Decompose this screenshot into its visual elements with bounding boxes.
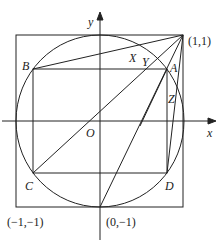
y-axis-arrow [97, 12, 103, 20]
point-x-label: X [129, 52, 136, 64]
x-axis-arrow [208, 118, 216, 124]
x-axis-label: x [207, 127, 212, 139]
y-axis-label: y [88, 16, 93, 28]
geometry-diagram: y x O B A C D X Y Z (1,1) (−1,−1) (0,−1) [0, 0, 222, 243]
point-c-label: C [25, 180, 33, 192]
point-b-label: B [22, 60, 29, 72]
origin-label: O [86, 127, 95, 139]
line-a-down [140, 69, 167, 126]
point-y-label: Y [142, 56, 149, 68]
line-1-1-to-b [33, 35, 183, 69]
coord-bottom-center: (0,−1) [106, 216, 136, 228]
line-1-1-to-c [33, 35, 183, 173]
coord-bottom-left: (−1,−1) [7, 216, 44, 228]
point-d-label: D [165, 180, 174, 192]
coord-top-right: (1,1) [188, 35, 211, 47]
point-z-label: Z [168, 93, 175, 105]
point-a-label: A [170, 62, 177, 74]
